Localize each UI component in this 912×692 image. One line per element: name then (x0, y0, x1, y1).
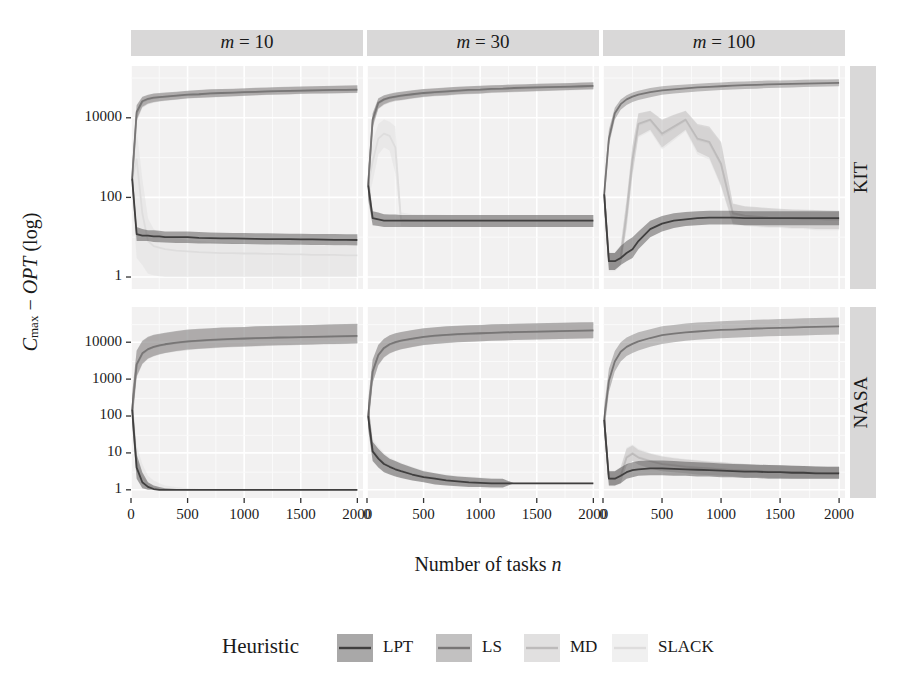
row-strip-label: NASA (850, 376, 871, 428)
x-tick-label: 0 (599, 506, 607, 522)
y-tick-label: 10000 (85, 108, 123, 124)
y-tick-label: 1 (115, 267, 123, 283)
row-strip-label: KIT (850, 161, 871, 193)
x-tick-label: 1000 (229, 506, 259, 522)
legend-item-label: MD (570, 637, 597, 656)
panel-nasa-10: 1101001000100000500100015002000 (85, 307, 373, 522)
x-tick-label: 2000 (824, 506, 854, 522)
column-strip-0: m = 10 (131, 30, 363, 56)
x-axis-title: Number of tasks n (414, 553, 561, 575)
row-strip-kit: KIT (850, 66, 876, 289)
y-tick-label: 1000 (92, 370, 122, 386)
x-tick-label: 1500 (286, 506, 316, 522)
x-tick-label: 1000 (465, 506, 495, 522)
legend-item-label: LPT (383, 637, 414, 656)
legend-item-slack[interactable]: SLACK (612, 634, 714, 662)
x-tick-label: 0 (127, 506, 135, 522)
facet-chart-figure: m = 10m = 30m = 100KITNASA11001000011010… (0, 0, 912, 692)
panel-kit-30 (367, 66, 599, 289)
legend-item-label: SLACK (658, 637, 714, 656)
x-tick-label: 500 (651, 506, 674, 522)
legend: HeuristicLPTLSMDSLACK (222, 634, 714, 662)
column-strip-1: m = 30 (367, 30, 599, 56)
column-strip-2: m = 100 (603, 30, 845, 56)
column-strip-label: m = 30 (457, 31, 510, 52)
x-tick-label: 0 (363, 506, 371, 522)
legend-item-md[interactable]: MD (524, 634, 597, 662)
row-strip-nasa: NASA (850, 307, 876, 498)
x-tick-label: 1500 (765, 506, 795, 522)
y-axis-title: Cmax − OPT (log) (19, 213, 42, 352)
legend-title: Heuristic (222, 634, 299, 658)
x-tick-label: 500 (412, 506, 435, 522)
panel-kit-100 (603, 66, 845, 289)
panel-nasa-100: 0500100015002000 (599, 307, 854, 522)
column-strip-label: m = 10 (221, 31, 274, 52)
y-tick-label: 10 (107, 443, 122, 459)
panel-nasa-30: 0500100015002000 (363, 307, 608, 522)
column-strip-label: m = 100 (693, 31, 755, 52)
y-tick-label: 1 (115, 480, 123, 496)
y-tick-label: 100 (100, 188, 123, 204)
panel-kit-10: 110010000 (85, 66, 364, 289)
y-tick-label: 100 (100, 406, 123, 422)
x-tick-label: 500 (176, 506, 199, 522)
chart-svg: m = 10m = 30m = 100KITNASA11001000011010… (0, 0, 912, 692)
legend-item-ls[interactable]: LS (436, 634, 502, 662)
x-tick-label: 1500 (522, 506, 552, 522)
legend-item-lpt[interactable]: LPT (337, 634, 414, 662)
legend-item-label: LS (482, 637, 502, 656)
y-tick-label: 10000 (85, 333, 123, 349)
x-tick-label: 1000 (706, 506, 736, 522)
